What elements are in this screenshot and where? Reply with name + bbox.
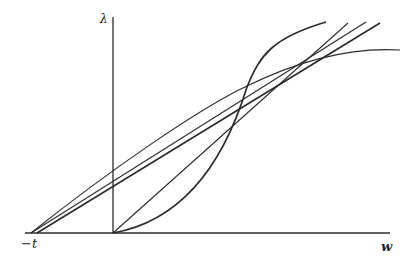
y-axis-label: λ	[100, 12, 108, 26]
line-from-minus-t-upper	[31, 22, 366, 233]
x-offset-label: −t	[21, 236, 37, 251]
diagram-canvas: λ −t w	[0, 0, 412, 266]
line-from-origin	[113, 23, 348, 233]
convex-curve	[113, 22, 326, 233]
x-axis-label: w	[381, 239, 392, 254]
diagram-svg	[0, 0, 412, 266]
line-from-minus-t-lower	[37, 23, 380, 233]
